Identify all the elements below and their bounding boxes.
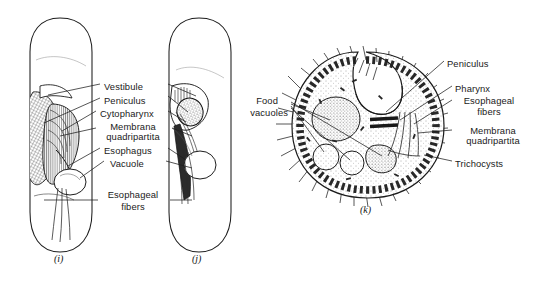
- food-vacuole-k-1: [313, 144, 339, 170]
- caption-panel-k: (k): [360, 204, 371, 215]
- panel-j: [169, 18, 231, 252]
- label-vacuoles: vacuoles: [232, 107, 288, 118]
- label-peniculus: Peniculus: [104, 95, 146, 106]
- label-quadripartita: quadripartita: [100, 131, 166, 142]
- label-food: Food: [232, 95, 278, 106]
- label-esophagus: Esophagus: [104, 145, 152, 156]
- label-esophageal-fibers-line1: Esophageal: [100, 189, 166, 200]
- label-vacuole: Vacuole: [110, 158, 144, 169]
- panel-i: [26, 18, 92, 252]
- label-esophageal-fibers-k-line2: fibers: [449, 106, 529, 117]
- figure-root: Vestibule Peniculus Cytopharynx Membrana…: [0, 0, 533, 283]
- caption-panel-i: (i): [54, 253, 63, 264]
- label-pharynx-k: Pharynx: [455, 83, 490, 94]
- label-trichocysts-k: Trichocysts: [455, 158, 503, 169]
- label-quadripartita-k: quadripartita: [453, 135, 533, 146]
- vacuole-i: [54, 169, 86, 195]
- caption-panel-j: (j): [192, 253, 201, 264]
- label-vestibule: Vestibule: [104, 81, 143, 92]
- label-esophageal-fibers-k-line1: Esophageal: [449, 95, 529, 106]
- label-cytopharynx: Cytopharynx: [100, 108, 154, 119]
- label-esophageal-fibers-line2: fibers: [100, 201, 166, 212]
- label-peniculus-k: Peniculus: [447, 58, 489, 69]
